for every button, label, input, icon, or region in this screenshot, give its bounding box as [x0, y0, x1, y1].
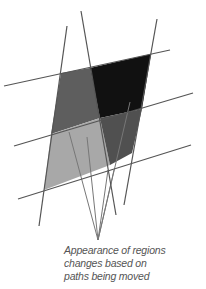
caption-line-1: Appearance of regions [64, 244, 204, 257]
caption: Appearance of regions changes based on p… [64, 244, 204, 283]
caption-line-3: paths being moved [64, 270, 204, 283]
caption-line-2: changes based on [64, 257, 204, 270]
